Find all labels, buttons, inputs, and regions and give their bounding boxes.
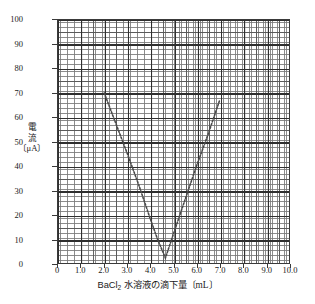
y-tick-mark [52, 142, 57, 143]
y-tick-label: 20 [0, 211, 23, 220]
x-tick-mark [290, 264, 291, 268]
x-tick-mark [57, 264, 58, 268]
y-tick-mark [52, 191, 57, 192]
y-axis-title-line1: 電 [17, 122, 47, 133]
x-axis-title-rest: 水溶液の滴下量〔mL〕 [121, 280, 217, 290]
y-tick-label: 60 [0, 113, 23, 122]
y-axis-title-line3: 〔μA〕 [17, 143, 47, 154]
y-tick-mark [52, 166, 57, 167]
y-tick-label: 30 [0, 187, 23, 196]
x-tick-mark [104, 264, 105, 268]
y-tick-label: 100 [0, 15, 23, 24]
y-tick-label: 10 [0, 236, 23, 245]
y-tick-label: 40 [0, 162, 23, 171]
y-tick-label: 90 [0, 40, 23, 49]
y-tick-label: 0 [0, 260, 23, 269]
chart-figure: 0102030405060708090100 01.02.03.04.05.06… [0, 0, 315, 304]
data-series-line [58, 20, 289, 263]
x-tick-mark [174, 264, 175, 268]
y-tick-label: 80 [0, 64, 23, 73]
y-tick-mark [52, 68, 57, 69]
y-axis-title: 電 流 〔μA〕 [17, 122, 47, 154]
plot-area [57, 19, 290, 264]
y-axis-title-line2: 流 [17, 133, 47, 144]
x-tick-mark [197, 264, 198, 268]
y-tick-mark [52, 93, 57, 94]
y-tick-mark [52, 19, 57, 20]
x-axis-title: BaCl2 水溶液の滴下量〔mL〕 [0, 280, 315, 291]
y-tick-label: 70 [0, 89, 23, 98]
x-tick-mark [220, 264, 221, 268]
x-tick-mark [243, 264, 244, 268]
x-tick-mark [80, 264, 81, 268]
y-tick-mark [52, 240, 57, 241]
x-tick-mark [267, 264, 268, 268]
y-tick-mark [52, 117, 57, 118]
x-tick-mark [150, 264, 151, 268]
y-tick-mark [52, 215, 57, 216]
x-tick-mark [127, 264, 128, 268]
x-axis-title-subscript: 2 [118, 284, 122, 291]
x-axis-title-formula: BaCl [97, 280, 117, 290]
y-tick-mark [52, 44, 57, 45]
